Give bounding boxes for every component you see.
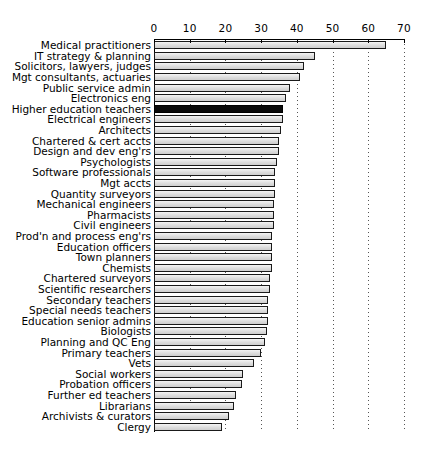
bar <box>154 412 229 420</box>
bar <box>154 232 272 240</box>
category-label: Scientific researchers <box>38 283 151 295</box>
x-tick-mark <box>190 39 191 43</box>
category-label: Mgt accts <box>100 177 151 189</box>
plot-area <box>154 40 404 432</box>
category-label: Prod'n and process eng'rs <box>16 230 151 242</box>
category-label: Design and dev eng'rs <box>33 145 151 157</box>
x-tick-mark <box>333 39 334 43</box>
bar <box>154 274 270 282</box>
category-label: Civil engineers <box>73 219 151 231</box>
category-label: Clergy <box>117 421 151 433</box>
category-label: Social workers <box>75 368 151 380</box>
bar <box>154 158 277 166</box>
category-label: Medical practitioners <box>41 39 151 51</box>
category-label: Primary teachers <box>61 347 151 359</box>
category-label: Mgt consultants, actuaries <box>12 71 151 83</box>
x-tick-label: 20 <box>219 22 233 34</box>
category-label: Secondary teachers <box>46 294 151 306</box>
bar <box>154 306 268 314</box>
category-label: Software professionals <box>32 166 151 178</box>
category-label: Chartered surveyors <box>44 272 151 284</box>
category-label: Quantity surveyors <box>51 188 151 200</box>
category-label: Electrical engineers <box>47 113 151 125</box>
category-label: Town planners <box>76 251 151 263</box>
category-label: Pharmacists <box>87 209 151 221</box>
category-label: Education officers <box>57 241 151 253</box>
bar <box>154 200 274 208</box>
gridline <box>297 40 298 432</box>
x-tick-label: 0 <box>151 22 158 34</box>
category-label: Education senior admins <box>21 315 151 327</box>
category-label: Further ed teachers <box>48 389 151 401</box>
x-tick-mark <box>368 39 369 43</box>
bar <box>154 179 275 187</box>
category-label: Chemists <box>102 262 151 274</box>
bar <box>154 221 274 229</box>
bar-chart: 010203040506070 Medical practitionersIT … <box>0 0 423 449</box>
bar <box>154 391 236 399</box>
bar <box>154 253 272 261</box>
x-tick-label: 10 <box>183 22 197 34</box>
gridline <box>333 40 334 432</box>
bar <box>154 243 272 251</box>
bar <box>154 349 261 357</box>
category-label: Architects <box>98 124 151 136</box>
x-tick-label: 70 <box>397 22 411 34</box>
x-axis-tick-labels: 010203040506070 <box>154 22 404 38</box>
bar <box>154 62 304 70</box>
bar <box>154 94 286 102</box>
bar <box>154 285 270 293</box>
bar <box>154 126 281 134</box>
bar <box>154 423 222 431</box>
category-label: Mechanical engineers <box>37 198 151 210</box>
bar <box>154 73 300 81</box>
bar <box>154 327 267 335</box>
gridline <box>368 40 369 432</box>
bar <box>154 338 265 346</box>
x-tick-label: 60 <box>361 22 375 34</box>
x-tick-mark <box>261 39 262 43</box>
bar <box>154 211 274 219</box>
x-tick-mark <box>297 39 298 43</box>
category-label: Biologists <box>100 325 151 337</box>
category-label: Librarians <box>99 400 151 412</box>
bar <box>154 317 268 325</box>
bar <box>154 52 315 60</box>
category-label: Special needs teachers <box>29 304 151 316</box>
category-label: Vets <box>129 357 151 369</box>
category-label: Planning and QC Eng <box>40 336 151 348</box>
gridline <box>404 40 405 432</box>
bar <box>154 296 268 304</box>
bar <box>154 115 283 123</box>
x-tick-label: 50 <box>326 22 340 34</box>
x-tick-label: 40 <box>290 22 304 34</box>
x-tick-mark <box>404 39 405 43</box>
category-label: Archivists & curators <box>42 410 151 422</box>
category-label: Electronics eng <box>71 92 151 104</box>
category-label: Probation officers <box>59 378 151 390</box>
bar <box>154 84 290 92</box>
bar <box>154 264 272 272</box>
category-label: Public service admin <box>43 82 151 94</box>
bar <box>154 168 275 176</box>
x-tick-mark <box>154 39 155 43</box>
category-label: IT strategy & planning <box>34 50 151 62</box>
bar <box>154 359 254 367</box>
bar <box>154 190 275 198</box>
x-tick-mark <box>225 39 226 43</box>
bar <box>154 402 234 410</box>
bar <box>154 370 243 378</box>
category-label: Psychologists <box>80 156 151 168</box>
bar <box>154 380 242 388</box>
category-label: Higher education teachers <box>12 103 151 115</box>
category-label: Chartered & cert accts <box>32 135 151 147</box>
category-label: Solicitors, lawyers, judges <box>14 60 151 72</box>
bar <box>154 147 279 155</box>
x-tick-label: 30 <box>254 22 268 34</box>
bar <box>154 105 283 113</box>
bar <box>154 137 279 145</box>
